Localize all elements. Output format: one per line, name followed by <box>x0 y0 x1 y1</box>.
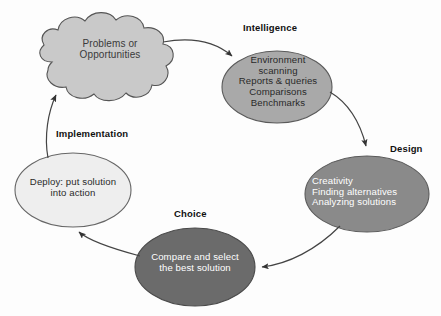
connector-choice-to-implementation <box>79 232 140 256</box>
diagram-canvas <box>0 0 441 316</box>
stage-label-choice: Choice <box>174 208 207 219</box>
ellipse-design <box>305 156 429 232</box>
connector-design-to-choice <box>262 226 340 267</box>
connector-implementation-to-problems <box>46 95 56 158</box>
node-problems-or-opportunities <box>40 13 173 101</box>
ellipse-implementation <box>15 153 131 227</box>
ellipse-choice <box>135 228 255 306</box>
stage-label-design: Design <box>390 143 423 154</box>
ellipse-intelligence <box>222 51 332 123</box>
stage-label-intelligence: Intelligence <box>243 22 297 33</box>
decision-process-diagram: Problems or Opportunities Environment sc… <box>0 0 441 316</box>
connector-intelligence-to-design <box>330 92 366 146</box>
stage-label-implementation: Implementation <box>56 128 128 139</box>
cloud-shape <box>40 13 173 101</box>
